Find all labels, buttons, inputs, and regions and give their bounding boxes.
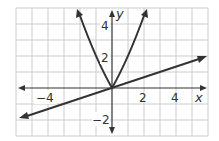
y-tick-neg2: −2 — [92, 113, 110, 127]
line-arrow-left — [19, 112, 29, 119]
x-tick-4: 4 — [171, 91, 179, 105]
y-axis-label: y — [115, 6, 124, 21]
graph: −4 2 4 x 4 2 −2 y — [0, 0, 219, 141]
y-tick-2: 2 — [101, 51, 109, 65]
line-arrow-right — [197, 56, 207, 63]
x-axis-label: x — [194, 90, 203, 105]
y-tick-4: 4 — [101, 19, 109, 33]
x-tick-2: 2 — [139, 91, 147, 105]
x-tick-neg4: −4 — [36, 91, 54, 105]
